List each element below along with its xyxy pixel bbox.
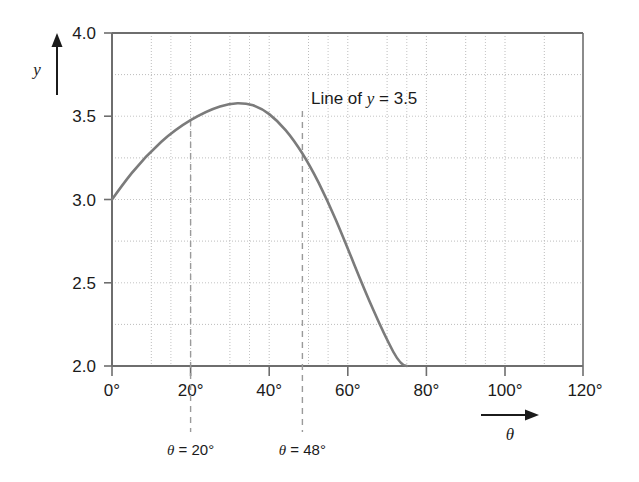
y-tick-label: 3.0 bbox=[72, 191, 96, 210]
y-tick-label: 4.0 bbox=[72, 24, 96, 43]
theta-48-value: = 48° bbox=[286, 441, 326, 458]
trigonometric-curve-chart: 4.0 3.5 3.0 2.5 2.0 0° 20° 40° 60° 80° 1… bbox=[0, 0, 639, 482]
y-tick-label: 2.5 bbox=[72, 274, 96, 293]
line-of-y-annotation: Line of y = 3.5 bbox=[311, 89, 417, 108]
x-tick-label: 60° bbox=[335, 381, 361, 400]
theta-20-marker-label: θ = 20° bbox=[167, 441, 214, 458]
x-tick-label: 80° bbox=[414, 381, 440, 400]
annotation-suffix: = 3.5 bbox=[374, 89, 417, 108]
y-tick-label: 2.0 bbox=[72, 357, 96, 376]
theta-20-value: = 20° bbox=[174, 441, 214, 458]
chart-page: 4.0 3.5 3.0 2.5 2.0 0° 20° 40° 60° 80° 1… bbox=[0, 0, 639, 482]
x-tick-label: 40° bbox=[256, 381, 282, 400]
x-tick-label: 0° bbox=[104, 381, 120, 400]
x-axis-label: θ bbox=[506, 425, 514, 444]
y-axis-label: y bbox=[31, 60, 41, 79]
y-tick-label: 3.5 bbox=[72, 107, 96, 126]
x-tick-label: 120° bbox=[567, 381, 602, 400]
theta-48-marker-label: θ = 48° bbox=[279, 441, 326, 458]
annotation-prefix: Line of bbox=[311, 89, 367, 108]
annotation-italic-y: y bbox=[365, 89, 375, 108]
x-tick-label: 100° bbox=[487, 381, 522, 400]
